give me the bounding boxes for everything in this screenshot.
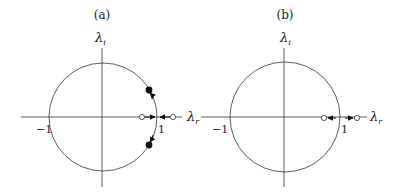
panel-a-y-axis-label: λi	[94, 30, 106, 47]
panel-b-eigenvalue-outer	[354, 115, 359, 120]
panel-a-eigenvalue-inner	[139, 114, 144, 119]
panel-a-eigenvalue-upper	[146, 87, 153, 94]
panel-a-x-axis-label: λr	[186, 109, 200, 126]
panel-b: (b) λi −1 1 λr	[201, 8, 383, 187]
panel-a-eigenvalue-outer	[170, 114, 175, 119]
panel-a-eigenvalue-lower	[146, 142, 153, 149]
panel-b-y-axis-label: λi	[279, 30, 291, 47]
panel-a-tick-1: 1	[158, 123, 165, 136]
figure: (a) λi −1 1 λr (b) λi −1 1 λr	[0, 0, 396, 195]
panel-b-tick-1: 1	[341, 123, 348, 136]
panel-a: (a) λi −1 1 λr	[21, 8, 200, 187]
panel-b-eigenvalue-inner	[321, 115, 326, 120]
panel-a-tick-neg1: −1	[36, 123, 52, 136]
panel-b-x-axis-label: λr	[369, 109, 383, 126]
panel-b-label: (b)	[276, 8, 293, 22]
panel-a-label: (a)	[94, 8, 111, 22]
panel-b-tick-neg1: −1	[212, 123, 228, 136]
